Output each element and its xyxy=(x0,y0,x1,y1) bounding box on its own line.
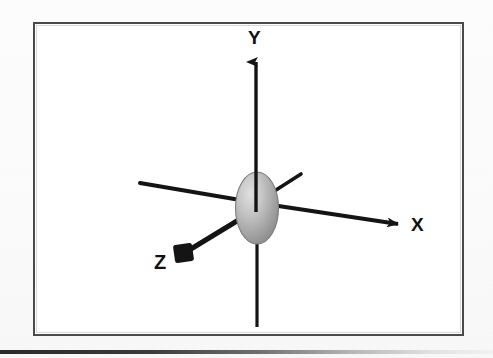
axis-line-x-negative xyxy=(140,183,252,202)
axis-label-z: Z xyxy=(154,252,166,272)
axis-label-x: X xyxy=(411,215,424,234)
page-rule-artifact xyxy=(0,350,493,354)
figure-root: Y X Z xyxy=(0,0,493,358)
z-axis-square-arrowhead xyxy=(173,243,194,263)
axes-diagram xyxy=(0,0,493,358)
axis-label-y: Y xyxy=(248,28,261,47)
